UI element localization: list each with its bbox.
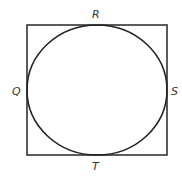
label-s: S bbox=[171, 85, 178, 98]
inscribed-circle bbox=[27, 25, 167, 155]
label-r: R bbox=[92, 8, 100, 21]
inscribed-circle-diagram: R Q S T bbox=[0, 0, 182, 177]
label-q: Q bbox=[12, 85, 21, 98]
label-t: T bbox=[92, 160, 100, 173]
